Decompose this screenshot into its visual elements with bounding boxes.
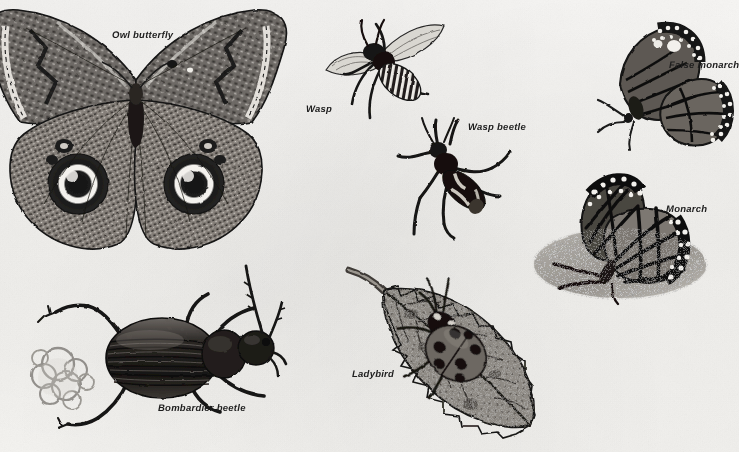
figure-monarch [528,172,710,308]
label-owl-butterfly: Owl butterfly [112,30,173,41]
label-ladybird: Ladybird [352,369,394,380]
label-false-monarch: False monarch [669,60,739,71]
label-bombardier-beetle: Bombardier beetle [158,403,246,414]
figure-ladybird [345,258,553,450]
figure-owl-butterfly [0,8,286,260]
defensive-spray [32,348,94,409]
label-wasp: Wasp [306,104,332,115]
figure-wasp [318,14,450,126]
figure-false-monarch [596,22,738,154]
figure-wasp-beetle [392,118,514,240]
label-monarch: Monarch [666,204,707,215]
illustration-plate: Owl butterfly [0,0,739,452]
label-wasp-beetle: Wasp beetle [468,122,526,133]
